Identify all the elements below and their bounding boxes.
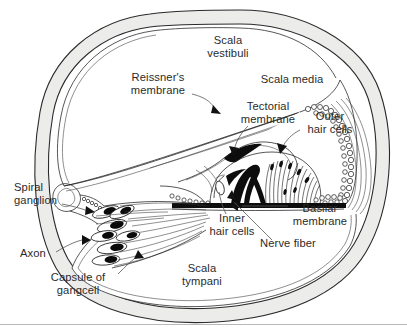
label-scala-tympani-line2: tympani	[182, 275, 222, 287]
label-scala-vestibuli-line1: Scala	[214, 34, 243, 46]
label-scala-media-line1: Scala media	[261, 73, 324, 85]
label-basilar-membrane-line2: membrane	[293, 215, 347, 227]
label-spiral-ganglion-line1: Spiral	[14, 181, 43, 193]
label-capsule-of-gangcell-line2: gangcell	[57, 284, 99, 296]
label-scala-tympani-line1: Scala	[188, 262, 217, 274]
label-basilar-membrane-line1: Basilar	[303, 202, 338, 214]
label-scala-vestibuli-line2: vestibuli	[207, 47, 248, 59]
label-scala-tympani: Scala tympani	[182, 262, 222, 287]
label-reissners-membrane-line1: Reissner's	[132, 71, 185, 83]
label-outer-hair-cells-line2: hair cells	[307, 123, 352, 135]
label-axon-line1: Axon	[20, 247, 46, 259]
label-reissners-membrane-line2: membrane	[131, 84, 185, 96]
label-capsule-of-gangcell-line1: Capsule of	[51, 271, 106, 283]
label-spiral-ganglion-line2: ganglion	[14, 194, 57, 206]
label-inner-hair-cells-line2: hair cells	[209, 225, 254, 237]
label-nerve-fiber-line1: Nerve fiber	[260, 237, 316, 249]
label-inner-hair-cells-line1: Inner	[219, 212, 245, 224]
label-scala-media: Scala media	[261, 73, 324, 85]
label-outer-hair-cells-line1: Outer	[316, 110, 345, 122]
label-tectorial-membrane-line1: Tectorial	[247, 100, 290, 112]
label-tectorial-membrane-line2: membrane	[241, 113, 295, 125]
cochlea-cross-section-figure: Scala vestibuli Scala media Reissner's m…	[0, 0, 407, 334]
